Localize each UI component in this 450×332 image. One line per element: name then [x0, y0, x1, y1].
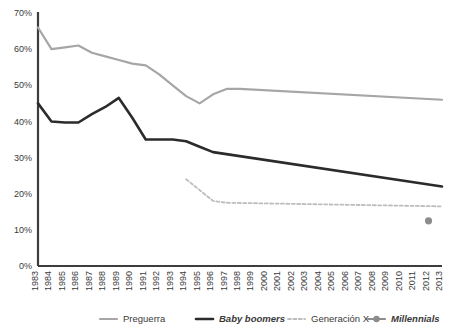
- x-axis-tick-label: 1991: [138, 271, 148, 291]
- series-millennials: [425, 217, 432, 224]
- series-line: [38, 27, 442, 103]
- y-axis-tick-labels: 0%10%20%30%40%50%60%70%: [14, 8, 32, 271]
- x-axis-tick-label: 1999: [245, 271, 255, 291]
- x-axis-tick-label: 2005: [326, 271, 336, 291]
- legend-label: Baby boomers: [219, 313, 285, 324]
- x-axis-tick-label: 1995: [192, 271, 202, 291]
- x-axis-tick-label: 1984: [43, 271, 53, 291]
- y-axis-tick-label: 10%: [14, 225, 32, 235]
- x-axis-tick-label: 2000: [259, 271, 269, 291]
- legend-item-millennials[interactable]: Millennials: [368, 313, 440, 324]
- y-axis-tick-label: 60%: [14, 44, 32, 54]
- series-line: [186, 179, 442, 206]
- x-axis-tick-label: 1983: [30, 271, 40, 291]
- line-chart: 0%10%20%30%40%50%60%70% 1983198419851986…: [0, 0, 450, 332]
- legend-label: Preguerra: [123, 313, 166, 324]
- x-axis-tick-label: 1985: [57, 271, 67, 291]
- legend-item-baby-boomers[interactable]: Baby boomers: [196, 313, 285, 324]
- series-data-point: [425, 217, 432, 224]
- series-baby-boomers: [38, 98, 442, 187]
- x-axis-tick-label: 2002: [286, 271, 296, 291]
- y-axis-tick-label: 70%: [14, 8, 32, 18]
- y-axis-tick-label: 40%: [14, 117, 32, 127]
- legend-marker-dot: [373, 316, 379, 322]
- x-axis-tick-label: 1986: [70, 271, 80, 291]
- x-axis-tick-label: 2011: [407, 271, 417, 290]
- chart-container: 0%10%20%30%40%50%60%70% 1983198419851986…: [0, 0, 450, 332]
- y-axis-tick-label: 30%: [14, 153, 32, 163]
- x-axis-tick-label: 1987: [84, 271, 94, 291]
- x-axis-tick-label: 2003: [299, 271, 309, 291]
- x-axis-tick-label: 1993: [165, 271, 175, 291]
- x-axis-tick-label: 1998: [232, 271, 242, 291]
- legend-item-preguerra[interactable]: Preguerra: [100, 313, 166, 324]
- x-axis-tick-label: 2009: [380, 271, 390, 291]
- x-axis-tick-label: 1996: [205, 271, 215, 291]
- x-axis-tick-label: 2007: [353, 271, 363, 291]
- x-axis-tick-label: 2004: [313, 271, 323, 291]
- x-axis-tick-label: 2010: [394, 271, 404, 291]
- x-axis-tick-label: 2006: [340, 271, 350, 291]
- chart-legend: PreguerraBaby boomersGeneración XMillenn…: [100, 313, 440, 324]
- x-axis-tick-label: 2013: [434, 271, 444, 291]
- x-axis-tick-label: 2001: [272, 271, 282, 291]
- x-axis-tick-label: 1992: [151, 271, 161, 291]
- x-axis-tick-label: 1994: [178, 271, 188, 291]
- legend-label: Generación X: [311, 313, 370, 324]
- x-axis-tick-label: 2012: [421, 271, 431, 291]
- x-axis-tick-labels: 1983198419851986198719881989199019911992…: [30, 271, 444, 291]
- x-axis-tick-label: 1997: [219, 271, 229, 291]
- x-axis-tick-label: 1990: [124, 271, 134, 291]
- chart-axes: [38, 12, 442, 266]
- y-axis-tick-label: 20%: [14, 189, 32, 199]
- y-axis-tick-label: 0%: [19, 261, 32, 271]
- series-generaci-n-x: [186, 179, 442, 206]
- y-axis-tick-label: 50%: [14, 80, 32, 90]
- x-axis-tick-label: 2008: [367, 271, 377, 291]
- x-axis-tick-label: 1989: [111, 271, 121, 291]
- series-preguerra: [38, 27, 442, 103]
- x-axis-tick-label: 1988: [97, 271, 107, 291]
- series-line: [38, 98, 442, 187]
- legend-label: Millennials: [391, 313, 440, 324]
- chart-series-group: [38, 27, 442, 224]
- legend-item-generacion-x[interactable]: Generación X: [288, 313, 370, 324]
